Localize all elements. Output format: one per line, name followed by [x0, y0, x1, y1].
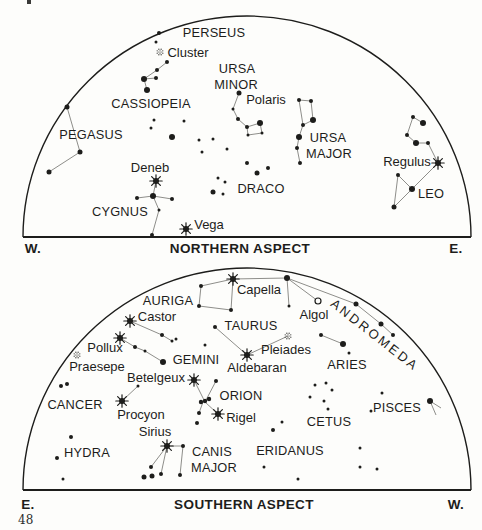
algol-open-circle	[315, 298, 321, 304]
constellation-line	[287, 278, 289, 306]
rigel-star-burst-icon	[212, 408, 224, 420]
star-dot	[150, 233, 154, 237]
star-dot	[165, 60, 169, 64]
castor-star-burst-icon	[124, 315, 136, 327]
burst-core	[244, 352, 250, 358]
star-dot	[359, 447, 362, 450]
praesepe-cluster-icon	[74, 352, 81, 359]
star-dot	[69, 435, 73, 439]
star-dot	[413, 140, 419, 146]
burst-core	[215, 411, 221, 417]
star-dot	[222, 193, 225, 196]
cluster-dot	[76, 356, 77, 357]
star-dot	[78, 150, 83, 155]
star-dot	[298, 161, 302, 165]
cluster-dot	[286, 333, 287, 334]
cluster-dot	[79, 355, 80, 356]
star-dot	[155, 68, 159, 72]
star-dot	[170, 197, 174, 201]
cluster-dot	[75, 352, 76, 353]
star-label-polaris: Polaris	[246, 92, 286, 107]
star-dot	[150, 193, 156, 199]
star-dot	[195, 421, 199, 425]
cluster-dot	[161, 51, 162, 52]
star-label-cluster: Cluster	[167, 45, 209, 60]
star-label-sirius: Sirius	[139, 424, 172, 439]
constellation-line	[394, 175, 398, 207]
constellation-line	[199, 286, 201, 306]
star-dot	[392, 205, 397, 210]
star-dot	[295, 146, 299, 150]
star-label-regulus: Regulus	[383, 154, 431, 169]
star-dot	[62, 478, 65, 481]
star-dot	[137, 385, 140, 388]
constellation-line	[180, 446, 183, 475]
star-dot	[281, 421, 284, 424]
sky-charts-svg: PERSEUSClusterCASSIOPEIAPEGASUSURSAMINOR…	[0, 0, 482, 530]
cluster-dot	[74, 355, 75, 356]
star-dot	[155, 41, 158, 44]
star-dot	[199, 400, 203, 404]
constellation-label-aries: ARIES	[327, 357, 366, 372]
cluster-dot	[285, 336, 286, 337]
cluster-dot	[286, 338, 287, 339]
star-dot	[420, 120, 426, 126]
sirius-star-burst-icon	[161, 440, 173, 452]
cluster-dot	[286, 335, 287, 336]
constellation-line	[287, 278, 318, 301]
constellation-line	[297, 148, 300, 163]
constellation-line	[233, 93, 239, 109]
star-dot	[226, 148, 229, 151]
burst-core	[153, 178, 159, 184]
star-label-capella: Capella	[237, 282, 282, 297]
star-dot	[157, 31, 161, 35]
star-dot	[65, 105, 70, 110]
aspect-title: NORTHERN ASPECT	[170, 241, 311, 256]
star-dot	[153, 119, 156, 122]
constellation-line	[407, 117, 413, 135]
burst-core	[127, 318, 133, 324]
constellation-label-gemini: GEMINI	[173, 352, 220, 367]
cluster-dot	[159, 50, 160, 51]
star-dot	[327, 408, 330, 411]
star-dot	[207, 397, 211, 401]
star-dot	[288, 305, 291, 308]
star-dot	[65, 382, 69, 386]
cluster-dot	[77, 352, 78, 353]
star-dot	[391, 333, 395, 337]
star-dot	[271, 428, 275, 432]
regulus-star-burst-icon	[432, 157, 444, 169]
star-label-castor: Castor	[138, 309, 177, 324]
star-dot	[426, 141, 430, 145]
cluster-dot	[75, 354, 76, 355]
constellation-label-draco: DRACO	[237, 181, 284, 196]
star-label-praesepe: Praesepe	[69, 359, 125, 374]
star-dot	[297, 98, 301, 102]
page-number: 48	[18, 513, 33, 527]
constellation-line	[206, 381, 216, 400]
star-dot	[197, 411, 201, 415]
star-dot	[159, 472, 163, 476]
star-dot	[232, 108, 235, 111]
constellation-label-cygnus: CYGNUS	[92, 204, 148, 219]
constellation-line	[201, 279, 233, 286]
cluster-dot	[158, 51, 159, 52]
cluster-dot	[289, 335, 290, 336]
star-dot	[204, 344, 207, 347]
star-dot	[55, 456, 59, 460]
star-dot	[325, 382, 328, 385]
burst-core	[191, 377, 197, 383]
star-dot	[245, 161, 249, 165]
star-label-pollux: Pollux	[87, 340, 123, 355]
star-dot	[144, 350, 147, 353]
star-label-betelgeux: Betelgeux	[127, 370, 185, 385]
star-dot	[158, 209, 161, 212]
star-dot	[297, 478, 300, 481]
constellation-label-major: MAJOR	[306, 146, 352, 161]
cluster-dot	[159, 53, 160, 54]
star-dot	[381, 392, 384, 395]
constellation-label-pegasus: PEGASUS	[59, 127, 122, 142]
burst-core	[183, 226, 189, 232]
star-dot	[247, 134, 250, 137]
deneb-star-burst-icon	[150, 175, 162, 187]
